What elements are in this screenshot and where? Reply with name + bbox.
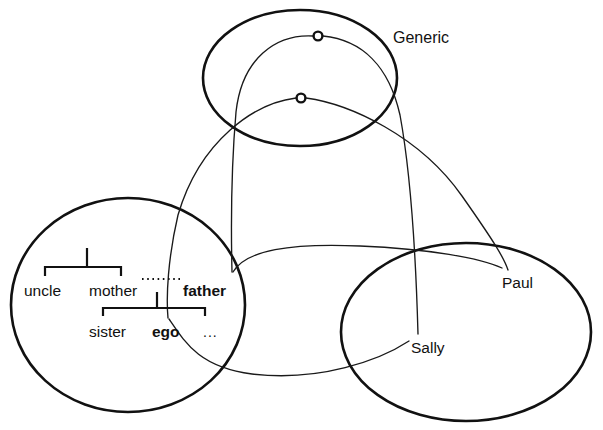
instance-region-ellipse[interactable] xyxy=(341,243,591,421)
instance-label-sally[interactable]: Sally xyxy=(411,340,445,356)
connector-generic-upper-to-father xyxy=(231,36,313,272)
generic-region-label: Generic xyxy=(393,30,449,46)
kinship-term-label-uncle[interactable]: uncle xyxy=(24,283,61,299)
generic-node-lower[interactable] xyxy=(297,94,306,103)
kinship-region-ellipse[interactable] xyxy=(11,198,245,412)
kinship-concept-diagram: Generic unclemotherfathersisterego...Pau… xyxy=(0,0,603,430)
kinship-term-label-etc[interactable]: ... xyxy=(203,325,218,339)
instance-label-paul[interactable]: Paul xyxy=(502,275,533,291)
generic-node-upper[interactable] xyxy=(314,32,323,41)
parent-bracket xyxy=(45,248,121,276)
connector-curves xyxy=(167,36,508,376)
connector-father-to-paul-arc xyxy=(233,245,502,272)
kinship-term-label-father[interactable]: father xyxy=(183,283,226,299)
kinship-term-label-mother[interactable]: mother xyxy=(89,283,137,299)
connector-generic-upper-to-sally xyxy=(323,36,418,334)
generic-concept-nodes xyxy=(297,32,323,103)
generic-region-ellipse[interactable] xyxy=(203,10,397,146)
diagram-canvas xyxy=(0,0,603,430)
region-ellipses xyxy=(11,10,591,421)
kinship-term-label-sister[interactable]: sister xyxy=(89,324,126,340)
kinship-term-label-ego[interactable]: ego xyxy=(152,324,180,340)
